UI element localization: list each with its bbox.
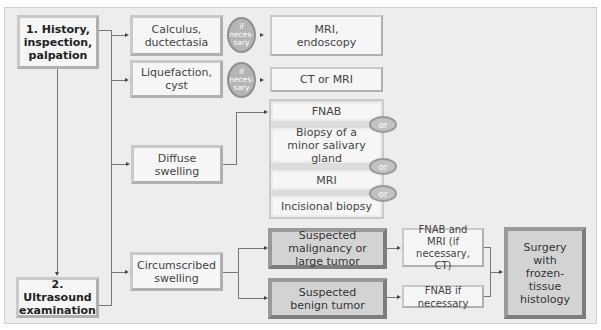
- connector-line: [111, 272, 126, 273]
- or-badge: or: [369, 116, 397, 133]
- suspicion-benign-box: Suspected benign tumor: [268, 278, 387, 319]
- test-mri-endoscopy-label: MRI, endoscopy: [297, 23, 356, 49]
- step-ultrasound-label: 2. Ultrasound examination: [19, 278, 96, 317]
- test-incisional-label: Incisional biopsy: [281, 200, 372, 213]
- connector-line: [386, 248, 397, 249]
- finding-calculus-box: Calculus, ductectasia: [130, 15, 223, 56]
- finding-circumscribed-label: Circumscribed swelling: [133, 259, 220, 285]
- arrow-right-icon: [499, 270, 503, 274]
- test-biopsy-minor-box: Biopsy of a minor salivary gland: [271, 128, 382, 163]
- connector-line: [98, 305, 112, 306]
- connector-line: [483, 247, 490, 248]
- step-ultrasound-box: 2. Ultrasound examination: [16, 277, 99, 318]
- arrow-right-icon: [397, 246, 401, 250]
- if-necessary-badge: if neces- sary: [227, 17, 256, 53]
- or-badge: or: [369, 185, 397, 202]
- test-fnab-and-mri-box: FNAB and MRI (if necessary, CT): [402, 228, 484, 267]
- connector-line: [57, 68, 58, 273]
- arrow-right-icon: [126, 162, 130, 166]
- step-history-label: 1. History, inspection, palpation: [20, 23, 96, 62]
- or-label: or: [378, 120, 387, 130]
- arrow-right-icon: [260, 33, 264, 37]
- arrow-down-icon: [55, 272, 59, 276]
- connector-line: [238, 248, 239, 298]
- connector-line: [111, 30, 112, 305]
- arrow-right-icon: [264, 110, 268, 114]
- connector-line: [238, 248, 264, 249]
- connector-line: [222, 164, 236, 165]
- or-label: or: [378, 189, 387, 199]
- suspicion-malignancy-box: Suspected malignancy or large tumor: [268, 228, 387, 269]
- connector-line: [483, 296, 490, 297]
- connector-line: [111, 80, 126, 81]
- arrow-right-icon: [125, 270, 129, 274]
- connector-line: [111, 35, 126, 36]
- step-history-box: 1. History, inspection, palpation: [17, 15, 99, 69]
- arrow-right-icon: [397, 295, 401, 299]
- test-fnab-box: FNAB: [271, 102, 382, 121]
- if-necessary-badge: if neces- sary: [227, 62, 256, 98]
- finding-liquefaction-label: Liquefaction, cyst: [141, 66, 212, 92]
- connector-line: [386, 297, 397, 298]
- arrow-right-icon: [260, 78, 264, 82]
- finding-liquefaction-box: Liquefaction, cyst: [130, 60, 223, 98]
- test-incisional-box: Incisional biopsy: [271, 196, 382, 217]
- test-mri-box: MRI: [271, 170, 382, 190]
- test-fnab-and-mri-label: FNAB and MRI (if necessary, CT): [408, 224, 478, 272]
- suspicion-malignancy-label: Suspected malignancy or large tumor: [276, 229, 379, 268]
- outcome-surgery-box: Surgery with frozen-tissue histology: [504, 227, 586, 319]
- test-mri-label: MRI: [316, 174, 336, 187]
- arrow-right-icon: [125, 33, 129, 37]
- test-fnab-label: FNAB: [312, 105, 342, 118]
- or-label: or: [378, 162, 387, 172]
- connector-line: [236, 112, 264, 113]
- finding-diffuse-label: Diffuse swelling: [152, 152, 202, 178]
- connector-line: [222, 272, 239, 273]
- if-necessary-label: if neces- sary: [229, 68, 254, 92]
- test-mri-endoscopy-box: MRI, endoscopy: [270, 15, 383, 56]
- connector-line: [98, 30, 112, 31]
- finding-circumscribed-box: Circumscribed swelling: [130, 252, 223, 291]
- connector-line: [238, 298, 264, 299]
- finding-diffuse-box: Diffuse swelling: [131, 145, 223, 184]
- if-necessary-label: if neces- sary: [229, 23, 254, 47]
- suspicion-benign-label: Suspected benign tumor: [286, 286, 369, 312]
- arrow-right-icon: [125, 78, 129, 82]
- connector-line: [490, 272, 499, 273]
- finding-calculus-label: Calculus, ductectasia: [141, 23, 212, 49]
- connector-line: [111, 164, 126, 165]
- outcome-surgery-label: Surgery with frozen-tissue histology: [518, 241, 572, 306]
- or-badge: or: [369, 158, 397, 175]
- test-biopsy-minor-label: Biopsy of a minor salivary gland: [283, 126, 370, 165]
- test-ct-or-mri-box: CT or MRI: [270, 67, 383, 92]
- connector-line: [236, 112, 237, 165]
- test-fnab-if-necessary-box: FNAB if necessary: [402, 285, 484, 308]
- test-fnab-if-necessary-label: FNAB if necessary: [404, 284, 482, 310]
- test-ct-or-mri-label: CT or MRI: [300, 73, 353, 86]
